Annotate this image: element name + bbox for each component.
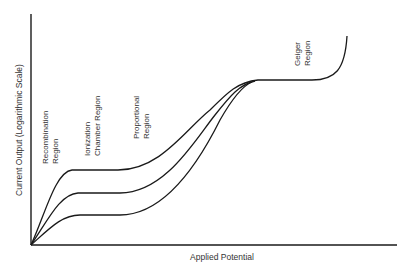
svg-text:Region: Region	[51, 139, 60, 164]
region-label-geiger: Geiger Region	[293, 41, 312, 66]
svg-text:Ionization: Ionization	[83, 122, 92, 156]
svg-text:Chamber Region: Chamber Region	[93, 96, 102, 156]
region-label-proportional: Proportional Region	[132, 96, 151, 139]
svg-text:Geiger: Geiger	[293, 42, 302, 66]
region-label-ionization-chamber: Ionization Chamber Region	[83, 96, 102, 156]
x-axis-label: Applied Potential	[190, 252, 254, 262]
gas-detector-regions-diagram: Current Output (Logarithmic Scale) Appli…	[0, 0, 409, 270]
svg-text:Recombination: Recombination	[41, 111, 50, 164]
curve-high	[31, 36, 347, 245]
curve-medium	[31, 81, 255, 245]
curve-low	[31, 82, 252, 245]
svg-text:Region: Region	[142, 114, 151, 139]
y-axis-label: Current Output (Logarithmic Scale)	[14, 64, 24, 196]
diagram-canvas: Current Output (Logarithmic Scale) Appli…	[0, 0, 409, 270]
svg-text:Region: Region	[303, 41, 312, 66]
region-label-recombination: Recombination Region	[41, 111, 60, 164]
svg-text:Proportional: Proportional	[132, 96, 141, 139]
